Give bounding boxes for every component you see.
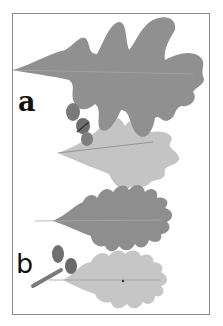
panel-label-b: b	[16, 250, 33, 277]
leaf-b-upper	[53, 185, 172, 251]
oak-leaves-illustration	[13, 14, 209, 314]
figure-frame: a b	[12, 13, 210, 315]
leaf-b-underside	[63, 250, 167, 308]
acorns-a	[66, 103, 93, 146]
panel-label-a: a	[18, 88, 36, 115]
leaf-a-upper	[13, 17, 204, 137]
